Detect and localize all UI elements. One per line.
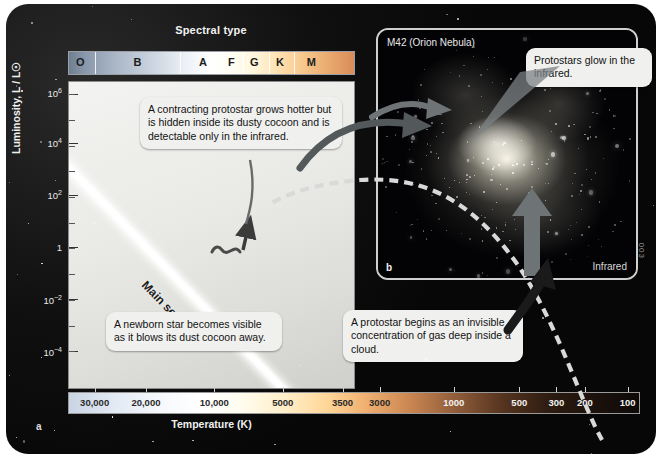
nebula-star bbox=[418, 99, 420, 101]
spectral-divider-3 bbox=[243, 52, 244, 74]
nebula-star bbox=[588, 226, 590, 228]
nebula-star bbox=[544, 89, 546, 91]
x-tick bbox=[214, 387, 215, 392]
nebula-star bbox=[574, 173, 575, 174]
background-star bbox=[589, 424, 590, 425]
background-star bbox=[92, 6, 93, 7]
y-tick-label: 10−4 bbox=[6, 346, 62, 358]
x-tick bbox=[95, 387, 96, 392]
nebula-star bbox=[467, 159, 470, 162]
background-star bbox=[21, 90, 23, 92]
nebula-star bbox=[440, 114, 441, 115]
x-tick bbox=[628, 387, 629, 392]
nebula-star bbox=[436, 136, 437, 137]
nebula-star bbox=[515, 151, 516, 152]
nebula-star bbox=[509, 240, 510, 241]
spectral-class-M: M bbox=[307, 56, 316, 68]
nebula-star bbox=[545, 183, 546, 184]
y-tick-label: 102 bbox=[6, 189, 62, 201]
nebula-star bbox=[609, 109, 610, 110]
nebula-star bbox=[411, 141, 413, 143]
nebula-star bbox=[620, 221, 622, 223]
nebula-star bbox=[442, 132, 443, 133]
nebula-star bbox=[581, 209, 582, 210]
nebula-star bbox=[502, 83, 503, 84]
nebula-star bbox=[596, 113, 597, 114]
figure-root: Spectral type OBAFGKM Main sequence Lumi… bbox=[0, 0, 665, 463]
nebula-star bbox=[523, 164, 524, 165]
nebula-star bbox=[403, 128, 405, 130]
background-star bbox=[16, 85, 17, 86]
callout-contracting-protostar: A contracting protostar grows hotter but… bbox=[140, 97, 342, 149]
nebula-star bbox=[598, 239, 600, 241]
background-star bbox=[131, 19, 132, 20]
nebula-star bbox=[614, 224, 616, 226]
x-tick-label: 300 bbox=[548, 397, 564, 408]
nebula-star bbox=[573, 124, 574, 125]
nebula-star bbox=[564, 140, 565, 141]
nebula-star bbox=[568, 125, 570, 127]
nebula-star bbox=[551, 131, 552, 132]
nebula-star bbox=[441, 123, 442, 124]
spectral-class-F: F bbox=[228, 56, 235, 68]
x-tick-label: 30,000 bbox=[80, 397, 109, 408]
nebula-star bbox=[463, 65, 465, 67]
nebula-star bbox=[492, 168, 494, 170]
inset-title: M42 (Orion Nebula) bbox=[387, 37, 475, 48]
background-star bbox=[450, 431, 451, 432]
nebula-star bbox=[629, 180, 631, 182]
callout-protostars-glow: Protostars glow in the infrared. bbox=[526, 48, 652, 87]
y-tick-minor bbox=[69, 351, 75, 352]
nebula-star bbox=[528, 277, 530, 279]
nebula-star bbox=[487, 69, 488, 70]
nebula-star bbox=[430, 151, 431, 152]
nebula-star bbox=[562, 136, 566, 140]
nebula-star bbox=[586, 169, 587, 170]
nebula-star bbox=[479, 126, 480, 127]
nebula-star bbox=[513, 165, 515, 167]
nebula-star bbox=[514, 161, 516, 163]
nebula-star bbox=[541, 271, 543, 273]
background-star bbox=[152, 441, 153, 442]
panel-a-label: a bbox=[36, 421, 42, 432]
x-tick bbox=[585, 387, 586, 392]
nebula-star bbox=[528, 192, 530, 194]
y-tick-label: 1 bbox=[6, 242, 62, 253]
nebula-star bbox=[496, 257, 498, 259]
spectral-divider-5 bbox=[294, 52, 295, 74]
nebula-star bbox=[491, 174, 492, 175]
nebula-star bbox=[517, 266, 518, 267]
x-tick-label: 10,000 bbox=[200, 397, 229, 408]
y-tick-label: 10−2 bbox=[6, 294, 62, 306]
nebula-star bbox=[592, 112, 594, 114]
nebula-star bbox=[588, 245, 589, 246]
spectral-divider-0 bbox=[95, 52, 96, 74]
nebula-star bbox=[496, 202, 497, 203]
nebula-star bbox=[450, 72, 451, 73]
nebula-star bbox=[473, 56, 474, 57]
spectral-type-title: Spectral type bbox=[66, 24, 356, 36]
background-star bbox=[41, 263, 42, 264]
nebula-star bbox=[599, 90, 601, 92]
nebula-star bbox=[492, 82, 493, 83]
nebula-star bbox=[555, 232, 559, 236]
nebula-star bbox=[502, 231, 504, 233]
background-star bbox=[31, 22, 33, 24]
nebula-star bbox=[474, 175, 476, 177]
nebula-star bbox=[512, 172, 514, 174]
nebula-star bbox=[382, 158, 384, 160]
nebula-star bbox=[530, 218, 532, 220]
nebula-star bbox=[539, 253, 541, 255]
nebula-star bbox=[498, 164, 500, 166]
nebula-star bbox=[578, 148, 579, 149]
nebula-star bbox=[560, 136, 563, 139]
nebula-star bbox=[386, 136, 387, 137]
nebula-star bbox=[587, 137, 589, 139]
callout-newborn-star: A newborn star becomes visible as it blo… bbox=[106, 312, 282, 351]
spectral-class-B: B bbox=[133, 56, 141, 68]
nebula-star bbox=[521, 140, 522, 141]
y-tick-minor bbox=[69, 197, 75, 198]
nebula-star bbox=[480, 74, 482, 76]
y-tick-minor bbox=[69, 94, 75, 95]
nebula-star bbox=[531, 186, 533, 188]
